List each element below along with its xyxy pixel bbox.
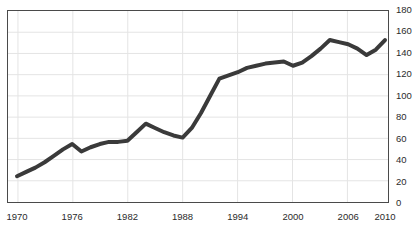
y-tick-label: 180 xyxy=(396,5,412,15)
y-tick-label: 160 xyxy=(396,26,412,36)
x-tick-label: 2010 xyxy=(368,212,402,222)
y-tick-label: 80 xyxy=(396,112,407,122)
x-tick-label: 1976 xyxy=(55,212,89,222)
y-tick-label: 120 xyxy=(396,69,412,79)
y-tick-label: 40 xyxy=(396,155,407,165)
x-tick-label: 1970 xyxy=(0,212,34,222)
y-tick-label: 0 xyxy=(396,198,401,208)
y-tick-label: 140 xyxy=(396,48,412,58)
x-tick-label: 2006 xyxy=(331,212,365,222)
chart-container: 020406080100120140160180 197019761982198… xyxy=(0,0,418,234)
x-tick-label: 1994 xyxy=(221,212,255,222)
x-tick-label: 1988 xyxy=(166,212,200,222)
y-tick-label: 20 xyxy=(396,177,407,187)
x-tick-label: 2000 xyxy=(276,212,310,222)
gridlines-layer xyxy=(8,11,388,202)
x-tick-label: 1982 xyxy=(110,212,144,222)
y-tick-label: 60 xyxy=(396,134,407,144)
plot-area-frame xyxy=(7,10,389,203)
y-tick-label: 100 xyxy=(396,91,412,101)
